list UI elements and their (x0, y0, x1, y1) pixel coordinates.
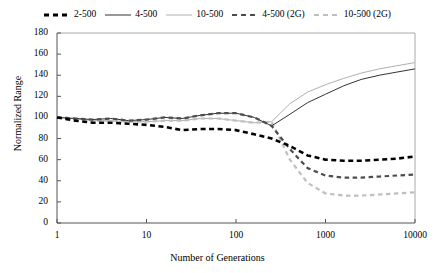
x-tick-label: 1 (37, 231, 77, 241)
x-tick-label: 1000 (306, 231, 346, 241)
y-tick-label: 60 (22, 155, 48, 165)
y-tick-label: 120 (22, 91, 48, 101)
y-axis-title: Normalized Range (12, 54, 23, 174)
y-tick-label: 140 (22, 70, 48, 80)
y-tick-label: 180 (22, 28, 48, 38)
y-tick-label: 100 (22, 112, 48, 122)
series-line-4-500 (57, 69, 415, 126)
y-tick-label: 40 (22, 176, 48, 186)
y-tick-label: 80 (22, 134, 48, 144)
y-tick-label: 0 (22, 218, 48, 228)
x-tick-label: 10000 (395, 231, 435, 241)
chart-container: 2-500 4-500 10-500 4-500 (2G) 10-500 (2G… (0, 0, 435, 273)
y-tick-label: 20 (22, 197, 48, 207)
x-tick-label: 100 (216, 231, 256, 241)
x-tick-label: 10 (127, 231, 167, 241)
y-tick-label: 160 (22, 49, 48, 59)
series-line-2-500 (57, 117, 415, 160)
x-axis-title: Number of Generations (0, 252, 435, 263)
